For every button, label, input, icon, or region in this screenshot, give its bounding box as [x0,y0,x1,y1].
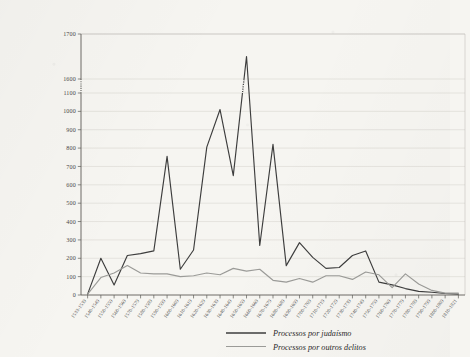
y-axis-ticks [78,34,81,295]
y-axis-tick-labels: 0100200300400500600700800900100011001600… [63,31,76,298]
chart-canvas: 0100200300400500600700800900100011001600… [40,16,470,357]
line-chart-figure: 0100200300400500600700800900100011001600… [40,16,410,341]
y-tick-label: 500 [66,200,75,206]
y-tick-label: 1700 [63,31,76,37]
legend-label-1: Processos por outros delitos [272,343,366,352]
y-tick-label: 400 [66,219,75,225]
y-tick-label: 200 [66,255,75,261]
y-tick-label: 700 [66,164,75,170]
y-tick-label: 900 [66,127,75,133]
axis-lines [81,34,465,295]
y-tick-label: 600 [66,182,75,188]
chart-legend: Processos por judaísmoProcessos por outr… [226,329,366,352]
legend-label-0: Processos por judaísmo [272,329,351,338]
y-tick-label: 1100 [63,90,75,96]
y-tick-label: 100 [66,274,75,280]
series-line-outros-delitos [88,266,459,294]
y-tick-label: 1600 [63,76,76,82]
x-axis-ticks [88,295,459,298]
y-tick-label: 1000 [63,108,76,114]
plot-frame [81,34,465,295]
x-axis-tick-labels: 1533-15391540-15491550-15591560-15691570… [70,298,458,319]
y-tick-label: 300 [66,237,75,243]
y-tick-label: 800 [66,145,75,151]
y-tick-label: 0 [73,292,76,298]
gridlines-group [81,34,465,277]
